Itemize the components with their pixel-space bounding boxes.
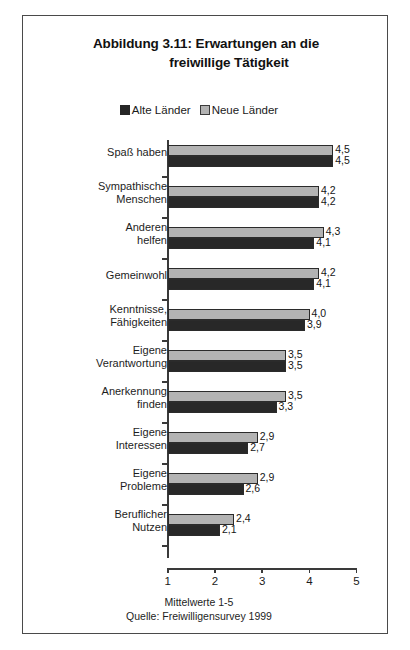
x-axis-tick-label: 3 [252,575,272,587]
category-label: EigeneVerantwortung [47,344,167,370]
category-label: Gemeinwohl [47,269,167,282]
caption-quelle: Quelle: Freiwilligensurvey 1999 [23,609,375,623]
page-title: Abbildung 3.11: Erwartungen an die freiw… [37,34,375,72]
x-axis-tick [261,568,263,573]
y-axis-tick [162,176,168,178]
x-axis-tick-label: 2 [205,575,225,587]
bar-light [168,391,286,402]
bar-light [168,309,310,320]
bar-dark [168,484,244,495]
y-axis-tick [162,463,168,465]
y-axis-tick [162,504,168,506]
bar-value-label: 3,9 [305,318,322,331]
category-label-line: Eigene [47,467,167,480]
bar-group: EigeneVerantwortung3,53,5 [23,349,389,390]
category-label: SympathischeMenschen [47,180,167,206]
bar-dark [168,238,314,249]
bar-group: BeruflicherNutzen2,42,1 [23,513,389,554]
category-label-line: Interessen [47,439,167,452]
category-label-line: Verantwortung [47,357,167,370]
x-axis-tick [167,568,169,573]
title-line-2: freiwillige Tätigkeit [37,53,375,72]
category-label-line: Spaß haben [47,146,167,159]
bar-value-label: 4,2 [319,195,336,208]
category-label-line: Beruflicher [47,508,167,521]
bar-value-label: 2,1 [220,523,237,536]
category-label: EigeneProbleme [47,467,167,493]
bar-dark [168,279,314,290]
category-label-line: Menschen [47,193,167,206]
bar-group: EigeneInteressen2,92,7 [23,431,389,472]
y-axis-tick [162,258,168,260]
bar-group: Anerkennungfinden3,53,3 [23,390,389,431]
category-label-line: Probleme [47,480,167,493]
y-axis-tick [162,340,168,342]
y-axis-tick [162,545,168,547]
category-label: EigeneInteressen [47,426,167,452]
category-label: BeruflicherNutzen [47,508,167,534]
bar-light [168,268,319,279]
bar-dark [168,402,277,413]
y-axis-tick [162,299,168,301]
category-label-line: Sympathische [47,180,167,193]
x-axis-tick-label: 4 [299,575,319,587]
legend-item-neue-laender: Neue Länder [200,104,279,116]
bar-light [168,350,286,361]
bar-value-label: 3,5 [286,359,303,372]
category-label-line: Gemeinwohl [47,269,167,282]
bar-group: Gemeinwohl4,24,1 [23,267,389,308]
bar-group: Kenntnisse,Fähigkeiten4,03,9 [23,308,389,349]
bar-light [168,186,319,197]
plot-area: Spaß haben4,54,5SympathischeMenschen4,24… [23,134,389,564]
legend-label-alte-laender: Alte Länder [132,104,191,116]
bar-value-label: 2,9 [258,471,275,484]
bar-group: Anderenhelfen4,34,1 [23,226,389,267]
legend-swatch-icon-alte-laender [120,105,130,115]
bar-light [168,227,324,238]
category-label-line: Kenntnisse, [47,303,167,316]
x-axis-tick [214,568,216,573]
category-label-line: Anerkennung [47,385,167,398]
bar-light [168,432,258,443]
chart-legend: Alte Länder Neue Länder [23,104,375,116]
legend-swatch-icon-neue-laender [200,105,210,115]
bar-value-label: 4,1 [314,277,331,290]
figure-frame: Abbildung 3.11: Erwartungen an die freiw… [22,15,388,634]
x-axis-tick-label: 1 [158,575,178,587]
x-axis-tick [356,568,358,573]
title-line-1: Abbildung 3.11: Erwartungen an die [93,36,319,51]
category-label: Anerkennungfinden [47,385,167,411]
category-label-line: Eigene [47,344,167,357]
category-label-line: helfen [47,234,167,247]
caption-mittelwerte: Mittelwerte 1-5 [23,595,375,609]
y-axis-tick [162,381,168,383]
x-axis: 12345 Mittelwerte 1-5 Quelle: Freiwillig… [23,568,389,648]
bar-dark [168,320,305,331]
bar-dark [168,525,220,536]
x-axis-tick [309,568,311,573]
category-label: Kenntnisse,Fähigkeiten [47,303,167,329]
bar-dark [168,156,333,167]
bar-dark [168,197,319,208]
bar-value-label: 4,1 [314,236,331,249]
axis-caption: Mittelwerte 1-5 Quelle: Freiwilligensurv… [23,595,375,623]
bar-value-label: 2,6 [244,482,261,495]
bar-value-label: 3,3 [277,400,294,413]
category-label: Spaß haben [47,146,167,159]
y-axis-tick [162,217,168,219]
x-axis-tick-label: 5 [347,575,367,587]
bar-light [168,145,333,156]
bar-value-label: 2,7 [248,441,265,454]
bar-group: SympathischeMenschen4,24,2 [23,185,389,226]
category-label-line: finden [47,398,167,411]
bar-dark [168,443,248,454]
category-label-line: Anderen [47,221,167,234]
category-label: Anderenhelfen [47,221,167,247]
legend-label-neue-laender: Neue Länder [212,104,279,116]
category-label-line: Nutzen [47,521,167,534]
bar-value-label: 4,5 [333,154,350,167]
category-label-line: Eigene [47,426,167,439]
category-label-line: Fähigkeiten [47,316,167,329]
bar-group: EigeneProbleme2,92,6 [23,472,389,513]
legend-item-alte-laender: Alte Länder [120,104,191,116]
